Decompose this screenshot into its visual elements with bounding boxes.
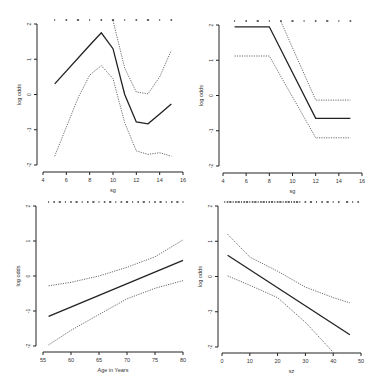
x-tick-label: 70 <box>124 357 130 363</box>
y-axis-label: log odds <box>198 85 204 106</box>
rug-mark <box>246 201 248 203</box>
lower-ci-line <box>49 281 183 345</box>
x-tick-label: 16 <box>359 178 365 184</box>
x-tick-label: 40 <box>330 358 336 364</box>
y-axis-label: log odds <box>197 266 203 287</box>
x-tick-label: 14 <box>157 177 163 183</box>
panel-sz: -2-1012log odds01020304050sz <box>197 201 364 374</box>
rug-mark <box>258 201 259 203</box>
rug-mark <box>327 201 329 203</box>
upper-ci-line <box>228 234 350 303</box>
rug-mark <box>54 19 55 21</box>
rug-mark <box>70 201 72 203</box>
x-axis-label: sg <box>290 188 296 194</box>
rug-mark <box>291 20 293 22</box>
upper-ci-line <box>49 240 183 286</box>
rug-mark <box>154 201 156 203</box>
rug-mark <box>104 201 106 203</box>
rug-mark <box>109 201 111 203</box>
chart-grid: -2-1012log odds46810121416sg -2-1012log … <box>0 0 384 390</box>
x-tick-label: 75 <box>152 357 158 363</box>
rug-mark <box>76 201 78 203</box>
rug-mark <box>257 20 259 22</box>
rug-mark <box>171 201 173 203</box>
rug-mark <box>310 201 312 203</box>
x-tick-label: 10 <box>289 178 295 184</box>
x-tick-label: 10 <box>247 358 253 364</box>
y-axis-label: log odds <box>16 84 22 105</box>
estimate-line <box>49 260 183 316</box>
rug-mark <box>149 201 150 203</box>
rug-mark <box>279 201 281 203</box>
x-tick-label: 14 <box>336 178 342 184</box>
x-tick-label: 8 <box>268 178 271 184</box>
rug-mark <box>271 201 273 203</box>
rug-mark <box>235 201 237 203</box>
rug-mark <box>92 201 94 203</box>
y-axis-label: log odds <box>15 265 21 286</box>
rug-mark <box>166 201 167 203</box>
y-tick-label: -2 <box>207 345 213 350</box>
x-tick-label: 30 <box>302 358 308 364</box>
y-tick-label: 0 <box>25 274 31 277</box>
rug-mark <box>285 201 287 203</box>
rug-mark <box>136 19 138 21</box>
rug-mark <box>346 201 348 203</box>
x-tick-label: 12 <box>133 177 139 183</box>
y-tick-label: 1 <box>207 240 213 243</box>
rug-mark <box>304 20 305 22</box>
rug-mark <box>66 19 68 21</box>
rug-mark <box>87 201 89 203</box>
rug-mark <box>183 201 184 203</box>
rug-mark <box>176 201 178 203</box>
rug-mark <box>321 201 323 203</box>
y-tick-label: -2 <box>25 344 31 349</box>
x-tick-label: 55 <box>40 357 46 363</box>
rug-mark <box>137 201 139 203</box>
rug-mark <box>229 201 231 203</box>
x-tick-label: 60 <box>68 357 74 363</box>
x-tick-label: 80 <box>180 357 186 363</box>
rug-mark <box>254 201 256 203</box>
y-tick-label: 0 <box>207 275 213 278</box>
y-tick-label: -1 <box>207 309 213 314</box>
y-tick-label: 2 <box>25 204 31 207</box>
upper-ci-line <box>281 22 351 101</box>
x-tick-label: 4 <box>221 178 224 184</box>
rug-mark <box>260 201 262 203</box>
rug-mark <box>269 20 270 22</box>
rug-mark <box>277 201 279 203</box>
rug-mark <box>48 201 49 203</box>
x-tick-label: 50 <box>358 358 364 364</box>
y-tick-label: 1 <box>25 239 31 242</box>
lower-ci-line <box>235 56 351 138</box>
x-tick-label: 6 <box>245 178 248 184</box>
x-tick-label: 6 <box>65 177 68 183</box>
rug-mark <box>266 201 267 203</box>
rug-mark <box>159 19 160 21</box>
rug-mark <box>288 201 290 203</box>
rug-mark <box>89 19 90 21</box>
lower-ci-line <box>55 66 172 157</box>
x-tick-label: 4 <box>41 177 44 183</box>
rug-mark <box>338 201 340 203</box>
rug-mark <box>350 20 352 22</box>
y-tick-label: 0 <box>208 94 214 97</box>
rug-mark <box>245 20 247 22</box>
x-axis-label: Age in Years <box>98 367 129 373</box>
y-tick-label: 1 <box>208 59 214 62</box>
rug-mark <box>291 201 292 203</box>
rug-mark <box>233 201 234 203</box>
rug-mark <box>263 201 265 203</box>
rug-mark <box>227 201 229 203</box>
rug-mark <box>59 201 61 203</box>
y-tick-label: 2 <box>26 22 32 25</box>
rug-mark <box>316 201 317 203</box>
rug-mark <box>77 19 79 21</box>
rug-mark <box>53 201 55 203</box>
rug-mark <box>132 201 133 203</box>
rug-mark <box>326 20 328 22</box>
rug-mark <box>115 201 116 203</box>
x-tick-label: 16 <box>180 177 186 183</box>
rug-mark <box>352 201 353 203</box>
